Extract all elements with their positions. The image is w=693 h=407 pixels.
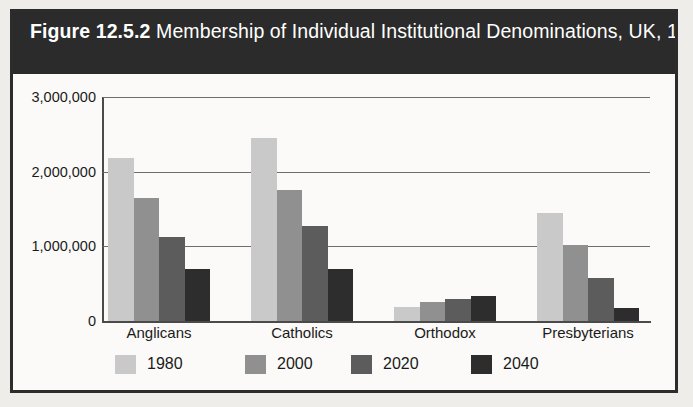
bar [277, 190, 303, 321]
x-axis-category-labels: AnglicansCatholicsOrthodoxPresbyterians [103, 324, 650, 346]
bar [159, 237, 185, 321]
gridline [103, 172, 650, 173]
figure-number: Figure 12.5.2 [30, 20, 151, 42]
bar [394, 307, 420, 321]
legend-swatch-icon [245, 355, 266, 374]
legend-label: 2020 [383, 355, 419, 373]
x-axis-category-label: Presbyterians [542, 324, 634, 341]
x-axis-category-label: Anglicans [126, 324, 191, 341]
bar [445, 299, 471, 321]
bar [537, 213, 563, 321]
bar [563, 245, 589, 321]
legend-item-1980[interactable]: 1980 [115, 353, 183, 375]
bar [108, 158, 134, 321]
y-axis-line [102, 97, 104, 322]
figure-title-text: Membership of Individual Institutional D… [151, 20, 675, 42]
gridline [103, 97, 650, 98]
legend-swatch-icon [471, 355, 492, 374]
bar [588, 278, 614, 321]
legend-item-2020[interactable]: 2020 [351, 353, 419, 375]
y-axis-tick-label: 3,000,000 [31, 89, 96, 105]
chart-body: 01,000,0002,000,0003,000,000 AnglicansCa… [13, 74, 675, 390]
bar [471, 296, 497, 321]
bar [251, 138, 277, 321]
bar [134, 198, 160, 321]
y-axis-tick-label: 1,000,000 [31, 238, 96, 254]
plot-area [103, 97, 650, 321]
legend-label: 2040 [503, 355, 539, 373]
y-axis-tick-label: 0 [88, 313, 96, 329]
legend-swatch-icon [351, 355, 372, 374]
figure-frame: Figure 12.5.2 Membership of Individual I… [10, 9, 678, 393]
bar [185, 269, 211, 321]
bar [420, 302, 446, 321]
page-title: Figure 12.5.2 Membership of Individual I… [30, 19, 675, 44]
bar [302, 226, 328, 321]
legend-swatch-icon [115, 355, 136, 374]
bar [614, 308, 640, 321]
legend-item-2040[interactable]: 2040 [471, 353, 539, 375]
figure-title-band: Figure 12.5.2 Membership of Individual I… [13, 12, 675, 74]
chart-legend: 1980200020202040 [13, 353, 675, 383]
legend-item-2000[interactable]: 2000 [245, 353, 313, 375]
legend-label: 1980 [147, 355, 183, 373]
x-axis-category-label: Orthodox [414, 324, 476, 341]
y-axis-tick-labels: 01,000,0002,000,0003,000,000 [13, 97, 96, 321]
bar [328, 269, 354, 321]
legend-label: 2000 [277, 355, 313, 373]
y-axis-tick-label: 2,000,000 [31, 164, 96, 180]
x-axis-category-label: Catholics [271, 324, 333, 341]
